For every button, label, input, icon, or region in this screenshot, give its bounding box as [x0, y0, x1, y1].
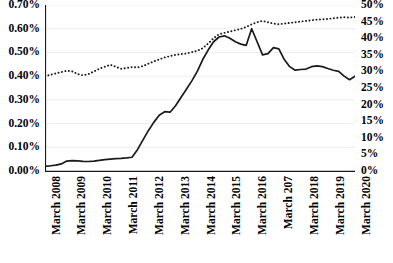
- x-axis-tick-label: March 2018: [308, 176, 320, 235]
- left-axis-tick-label: 0.10%: [8, 142, 40, 154]
- left-axis-tick-label: 0.30%: [8, 94, 40, 106]
- left-axis-tick-label: 0.00%: [8, 165, 40, 177]
- x-axis-tick-label: March 2020: [360, 176, 372, 235]
- left-axis-tick-label: 0.20%: [8, 118, 40, 130]
- x-axis-tick-label: March 2019: [334, 176, 346, 235]
- right-axis-tick-label: 15%: [361, 115, 384, 127]
- left-axis-tick-label: 0.40%: [8, 70, 40, 82]
- left-axis-tick-label: 0.70%: [8, 0, 40, 11]
- left-axis: 0.70%0.60%0.50%0.40%0.30%0.20%0.10%0.00%: [0, 0, 45, 178]
- right-axis: 50%45%40%35%30%25%20%15%10%5%0%: [358, 0, 393, 178]
- right-axis-tick-label: 45%: [361, 16, 384, 28]
- x-axis-labels: March 2008March 2009March 2010March 2011…: [45, 176, 355, 256]
- right-axis-tick-label: 35%: [361, 49, 384, 61]
- data-series-solid: [45, 29, 355, 167]
- right-axis-tick-label: 30%: [361, 66, 384, 78]
- plot-area: [45, 5, 355, 172]
- right-axis-tick-label: 50%: [361, 0, 384, 11]
- right-axis-tick-label: 40%: [361, 32, 384, 44]
- x-axis-tick-label: March 2013: [179, 176, 191, 235]
- right-axis-tick-label: 10%: [361, 132, 384, 144]
- x-axis-tick-label: March 2009: [75, 176, 87, 235]
- x-axis-tick-label: March 2012: [153, 176, 165, 235]
- gridlines: [45, 5, 355, 147]
- x-axis-tick-label: March 2016: [256, 176, 268, 235]
- x-axis-tick-label: March 2008: [50, 176, 62, 235]
- x-axis-tick-label: March 2014: [205, 176, 217, 235]
- chart-legend-caption: [62, 254, 362, 263]
- right-axis-tick-label: 20%: [361, 99, 384, 111]
- chart-container: 0.70%0.60%0.50%0.40%0.30%0.20%0.10%0.00%…: [0, 0, 393, 263]
- plot-svg: [45, 5, 355, 172]
- x-axis-tick-label: March 207: [282, 176, 294, 229]
- x-axis-tick-label: March 2011: [127, 176, 139, 234]
- x-axis-tick-label: March 2015: [230, 176, 242, 235]
- left-axis-tick-label: 0.50%: [8, 47, 40, 59]
- x-axis-tick-label: March 2010: [101, 176, 113, 235]
- right-axis-tick-label: 5%: [361, 149, 378, 161]
- right-axis-tick-label: 25%: [361, 82, 384, 94]
- left-axis-tick-label: 0.60%: [8, 23, 40, 35]
